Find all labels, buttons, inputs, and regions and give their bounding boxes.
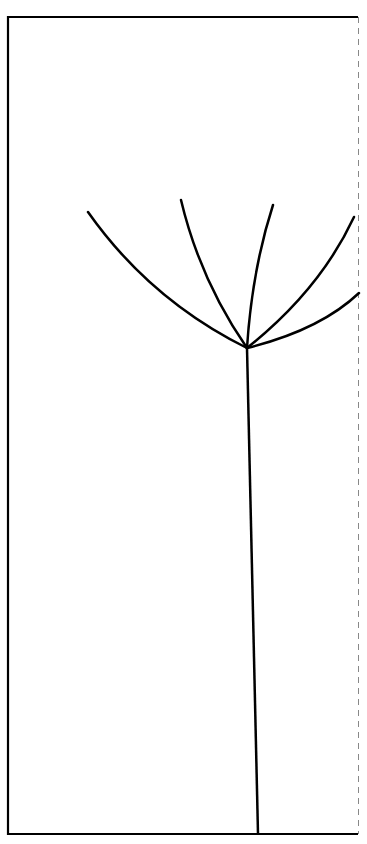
- branch-2: [181, 200, 247, 348]
- branch-3: [247, 205, 273, 348]
- frame: [8, 17, 359, 834]
- branches: [88, 200, 359, 348]
- branch-1: [88, 212, 247, 348]
- branch-5: [247, 293, 359, 348]
- stem-line: [247, 348, 258, 834]
- diagram-canvas: [0, 0, 367, 844]
- frame-solid-border: [8, 17, 358, 834]
